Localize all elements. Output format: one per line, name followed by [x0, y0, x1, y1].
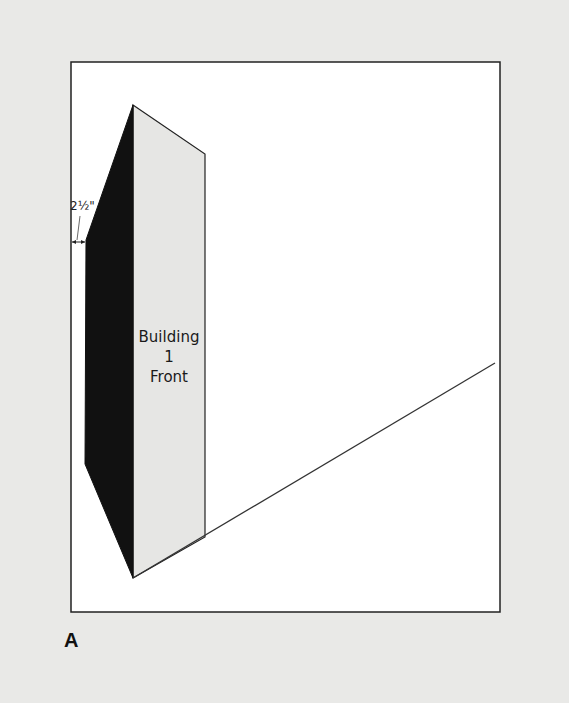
building-label-line2: 1 [128, 347, 210, 367]
building-label-line1: Building [128, 327, 210, 347]
building-label-line3: Front [128, 367, 210, 387]
figure-label: A [64, 629, 78, 652]
dimension-label: 2½" [70, 199, 95, 213]
perspective-diagram [0, 0, 569, 703]
building-label: Building 1 Front [128, 327, 210, 387]
